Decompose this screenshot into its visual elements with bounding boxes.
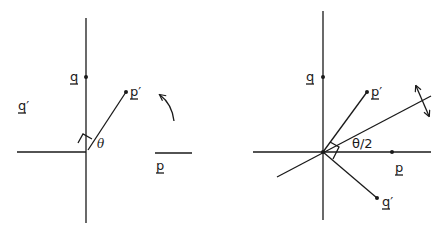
right-q-prime-dot [375, 196, 379, 200]
right-p-dot [390, 150, 394, 154]
right-origin-dot [321, 150, 325, 154]
right-label-p: p [395, 160, 403, 175]
right-q-dot [321, 75, 325, 79]
right-q-prime-vector [323, 152, 377, 198]
left-label-theta: θ [97, 137, 105, 151]
left-p-prime-vector [88, 92, 126, 150]
right-label-p-prime: p′ [371, 84, 382, 99]
left-label-q-prime: q′ [18, 98, 29, 113]
left-q-dot [84, 75, 88, 79]
left-panel-rotation: q q′ p′ p θ [17, 18, 192, 223]
diagram-canvas: q q′ p′ p θ q p′ p q′ θ/2 [0, 0, 448, 235]
right-label-half-theta: θ/2 [352, 136, 373, 151]
left-label-p-prime: p′ [130, 84, 141, 99]
right-panel-reflection: q p′ p q′ θ/2 [253, 11, 431, 220]
left-label-p: p [156, 158, 164, 173]
right-label-q: q [306, 69, 314, 84]
right-label-q-prime: q′ [382, 194, 393, 209]
left-p-prime-dot [124, 90, 128, 94]
right-p-prime-dot [365, 90, 369, 94]
reflection-arrow-icon [416, 86, 429, 116]
rotation-arrow-icon [160, 95, 174, 121]
left-label-q: q [70, 69, 78, 84]
left-right-angle-marker [78, 134, 92, 143]
